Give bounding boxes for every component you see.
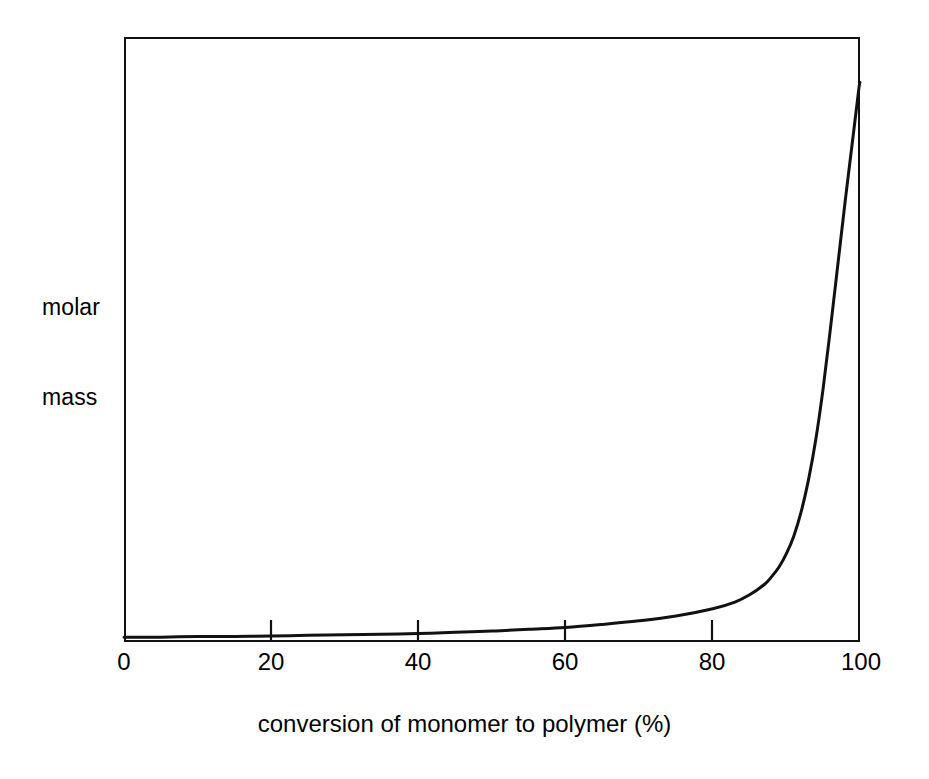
x-tick-label-40: 40 — [405, 650, 432, 674]
x-tick-label-0: 0 — [117, 650, 130, 674]
x-tick-label-80: 80 — [699, 650, 726, 674]
x-tick-label-20: 20 — [258, 650, 285, 674]
x-axis-title: conversion of monomer to polymer (%) — [0, 712, 929, 736]
y-axis-label-line-2: mass — [42, 386, 97, 409]
x-tick-label-60: 60 — [552, 650, 579, 674]
plot-area-frame — [124, 37, 860, 642]
y-axis-label-line-1: molar — [42, 296, 100, 319]
chart-figure: molar mass 020406080100 conversion of mo… — [0, 0, 929, 779]
x-tick-label-100: 100 — [841, 650, 881, 674]
